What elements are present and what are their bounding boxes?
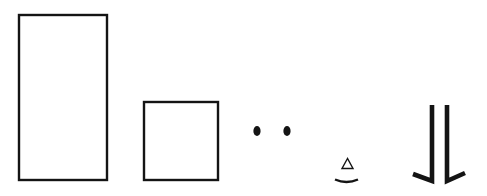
dot-right-icon — [283, 126, 290, 136]
dot-left-icon — [253, 126, 260, 136]
leg-right-icon — [447, 105, 465, 181]
diagram-canvas — [0, 0, 487, 196]
square — [144, 102, 218, 180]
leg-left-icon — [413, 105, 432, 181]
tall-rectangle — [19, 15, 107, 180]
triangle-icon — [342, 159, 353, 169]
arc-icon — [335, 180, 358, 183]
